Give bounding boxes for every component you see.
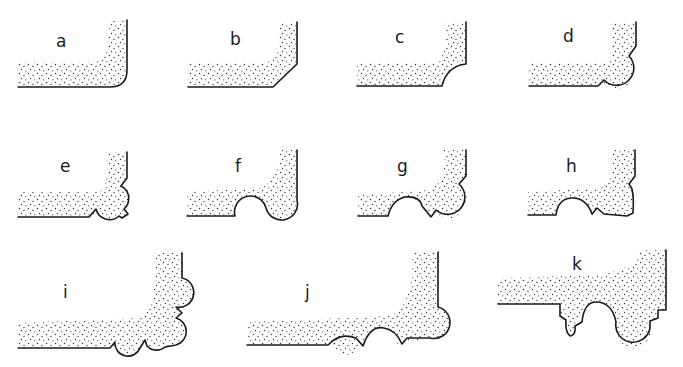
profile-c: c <box>357 22 466 86</box>
profile-label-d: d <box>563 26 574 46</box>
stipple-fill <box>18 20 127 87</box>
profile-label-f: f <box>235 156 242 176</box>
stipple-fill <box>247 252 450 355</box>
stipple-fill <box>358 150 467 218</box>
profile-label-i: i <box>63 282 68 302</box>
stipple-fill <box>528 150 636 216</box>
profile-label-c: c <box>395 27 404 47</box>
profile-f: f <box>187 150 298 220</box>
profile-k: k <box>498 250 666 348</box>
molding-profiles-diagram: a b c d e f g h <box>0 0 683 367</box>
stipple-fill <box>357 22 466 86</box>
profile-label-b: b <box>230 29 241 49</box>
profile-b: b <box>188 22 297 87</box>
profile-a: a <box>18 20 127 87</box>
profile-j: j <box>247 252 450 355</box>
stipple-fill <box>18 152 130 219</box>
profile-g: g <box>358 150 467 218</box>
profile-h: h <box>528 150 636 216</box>
profile-label-h: h <box>566 156 577 176</box>
profile-label-k: k <box>572 254 582 274</box>
profile-label-j: j <box>304 282 310 302</box>
profile-label-a: a <box>56 31 66 51</box>
profile-label-g: g <box>397 156 408 176</box>
profile-e: e <box>18 152 130 220</box>
profile-d: d <box>529 22 636 89</box>
stipple-fill <box>188 22 297 87</box>
profile-i: i <box>18 253 194 356</box>
stipple-fill <box>18 253 194 356</box>
stipple-fill <box>529 22 636 89</box>
stipple-fill <box>187 150 298 220</box>
profile-label-e: e <box>60 156 70 176</box>
stipple-fill <box>498 250 666 348</box>
